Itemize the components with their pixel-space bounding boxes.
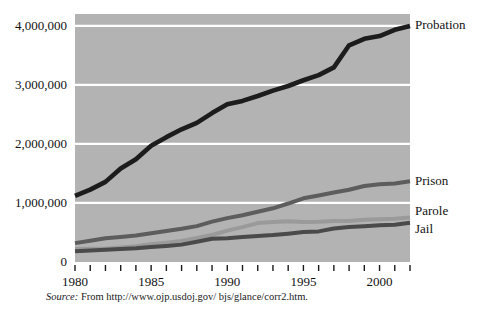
x-tick-label-1980: 1980 bbox=[45, 275, 105, 288]
x-tick-label-1985: 1985 bbox=[121, 275, 181, 288]
series-label-probation: Probation bbox=[415, 18, 466, 32]
x-tick-label-1990: 1990 bbox=[197, 275, 257, 288]
y-tick-label-1000000: 1,000,000 bbox=[0, 196, 67, 209]
chart-figure: 01,000,0002,000,0003,000,0004,000,000 19… bbox=[0, 0, 480, 312]
source-note: Source: From http://www.ojp.usdoj.gov/ b… bbox=[46, 291, 308, 303]
x-tick-label-1995: 1995 bbox=[273, 275, 333, 288]
x-tick-label-2000: 2000 bbox=[350, 275, 410, 288]
series-label-jail: Jail bbox=[415, 222, 433, 236]
series-label-parole: Parole bbox=[415, 204, 448, 218]
x-axis-ticks bbox=[75, 265, 410, 271]
y-tick-label-2000000: 2,000,000 bbox=[0, 137, 67, 150]
series-label-prison: Prison bbox=[415, 174, 448, 188]
y-tick-label-4000000: 4,000,000 bbox=[0, 19, 67, 32]
source-text: From http://www.ojp.usdoj.gov/ bjs/glanc… bbox=[78, 291, 308, 302]
y-tick-label-0: 0 bbox=[0, 255, 67, 268]
y-tick-label-3000000: 3,000,000 bbox=[0, 78, 67, 91]
line-chart-canvas bbox=[0, 0, 480, 312]
source-prefix: Source: bbox=[46, 291, 78, 302]
